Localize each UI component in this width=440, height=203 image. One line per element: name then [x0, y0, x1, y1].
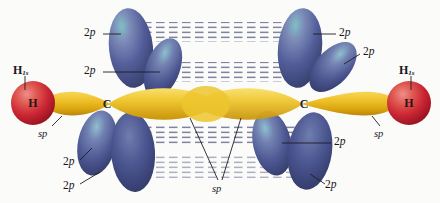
atom-label-h-left: H	[25, 96, 41, 111]
label-h1s-left-subscript: 1s	[22, 69, 28, 77]
atom-label-c-right: C	[297, 97, 311, 112]
label-2p-upper-left-inner-orbital: p	[90, 64, 96, 76]
label-h1s-right-symbol: H	[399, 63, 408, 77]
label-h1s-right: H1s	[399, 64, 414, 77]
label-2p-upper-right-inner: 2p	[363, 46, 375, 58]
label-2p-lower-left-outer: 2p	[63, 180, 75, 192]
label-2p-lower-right-inner-orbital: p	[340, 135, 346, 147]
label-sp-right: sp	[374, 129, 383, 140]
atom-label-h-right: H	[401, 96, 417, 111]
atom-label-c-left: C	[100, 97, 114, 112]
label-2p-lower-left-inner-orbital: p	[69, 155, 75, 167]
label-2p-upper-right-outer-orbital: p	[345, 26, 351, 38]
label-2p-lower-right-outer-orbital: p	[331, 178, 337, 190]
leader-sp-left	[52, 116, 62, 126]
label-sp-left: sp	[38, 129, 47, 140]
sp-orbital-right-outer	[301, 92, 400, 116]
sigma-bond-overlap-region	[182, 86, 230, 122]
orbital-diagram-figure: H C C H H1s H1s sp sp sp 2p 2p 2p 2p 2p …	[0, 0, 440, 203]
label-sp-center: sp	[212, 184, 221, 195]
label-h1s-left: H1s	[13, 64, 28, 77]
label-2p-upper-right-outer: 2p	[339, 27, 351, 39]
p-orbital-left-lower-outer	[108, 111, 157, 194]
label-2p-upper-left-inner: 2p	[84, 65, 96, 77]
label-h1s-left-symbol: H	[13, 63, 22, 77]
label-2p-upper-right-inner-orbital: p	[369, 45, 375, 57]
orbital-artwork	[0, 0, 440, 203]
label-2p-lower-left-outer-orbital: p	[69, 179, 75, 191]
label-2p-lower-left-inner: 2p	[63, 156, 75, 168]
label-2p-lower-right-inner: 2p	[334, 136, 346, 148]
label-2p-upper-left-outer-orbital: p	[90, 26, 96, 38]
leader-sp-right	[372, 116, 380, 126]
label-2p-upper-left-outer: 2p	[84, 27, 96, 39]
label-2p-lower-right-outer: 2p	[325, 179, 337, 191]
label-h1s-right-subscript: 1s	[408, 69, 414, 77]
